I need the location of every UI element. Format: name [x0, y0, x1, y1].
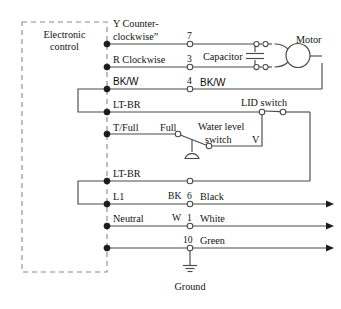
- wiring-diagram: Electronic control Y Counter- clockwise”…: [0, 0, 341, 309]
- label-green: Green: [200, 235, 225, 246]
- label-ground: Ground: [174, 281, 205, 292]
- label-bk-w-left: BK/W: [113, 76, 139, 87]
- terminal-4[interactable]: [187, 86, 193, 92]
- label-motor: Motor: [296, 34, 322, 45]
- label-neutral: Neutral: [113, 213, 144, 224]
- label-lt-br-upper: LT-BR: [113, 99, 141, 110]
- motor-terminal-bottom-left[interactable]: [254, 64, 259, 69]
- schematic-canvas: Electronic control Y Counter- clockwise”…: [0, 0, 341, 309]
- control-box-label-line2: control: [50, 41, 79, 52]
- bus-node-lt-br-lower[interactable]: [104, 178, 110, 184]
- water-level-pivot-base-icon: [185, 154, 199, 159]
- terminal-1[interactable]: [187, 223, 193, 229]
- motor-body-icon: [286, 44, 310, 68]
- electronic-control-box: [22, 22, 107, 272]
- motor-bottom-lead: [275, 62, 289, 67]
- motor-top-lead: [275, 44, 289, 49]
- motor-terminal-top-left[interactable]: [254, 41, 259, 46]
- control-box-label-line1: Electronic: [44, 29, 86, 40]
- label-water-level-switch-line2: switch: [205, 134, 232, 145]
- motor-terminal-top-right[interactable]: [263, 41, 268, 46]
- terminal-lt-br-lower[interactable]: [187, 178, 193, 184]
- label-black: Black: [200, 191, 225, 202]
- terminal-number-3: 3: [187, 53, 192, 64]
- lid-switch-right-contact[interactable]: [280, 109, 286, 115]
- terminal-7[interactable]: [187, 41, 193, 47]
- jumper-ltbr-to-l1: [78, 181, 107, 204]
- label-lid-switch: LID switch: [241, 97, 287, 108]
- terminal-3[interactable]: [187, 64, 193, 70]
- label-water-level-full-contact: Full: [160, 122, 177, 133]
- lid-switch-blade[interactable]: [265, 111, 281, 112]
- bus-node-lt-br-upper[interactable]: [104, 109, 110, 115]
- label-lt-br-lower: LT-BR: [113, 168, 141, 179]
- jumper-bkw-to-ltbr: [78, 89, 107, 112]
- terminal-10[interactable]: [187, 245, 193, 251]
- bus-node-y-counterclockwise[interactable]: [104, 41, 110, 47]
- terminal-number-1: 1: [187, 212, 192, 223]
- label-r-clockwise: R Clockwise: [113, 54, 166, 65]
- label-t-full: T/Full: [113, 122, 139, 133]
- bus-node-bk-w[interactable]: [104, 86, 110, 92]
- terminal-number-4: 4: [187, 75, 192, 86]
- arrow-green-output: [326, 245, 334, 252]
- label-capacitor: Capacitor: [203, 51, 243, 62]
- terminal-number-10: 10: [183, 234, 193, 245]
- water-level-switch-blade[interactable]: [180, 135, 206, 145]
- bus-node-neutral[interactable]: [104, 223, 110, 229]
- terminal-number-6: 6: [187, 190, 192, 201]
- label-water-level-switch-line1: Water level: [198, 121, 245, 132]
- label-white: White: [200, 213, 225, 224]
- label-y-counterclockwise-line2: clockwise”: [113, 31, 159, 42]
- bus-node-r-clockwise[interactable]: [104, 64, 110, 70]
- label-l1: L1: [113, 191, 124, 202]
- bus-node-l1[interactable]: [104, 201, 110, 207]
- bus-node-green[interactable]: [104, 245, 110, 251]
- terminal-6[interactable]: [187, 201, 193, 207]
- lid-switch-left-contact[interactable]: [259, 109, 265, 115]
- arrow-black-output: [326, 201, 334, 208]
- wire-code-bk: BK: [168, 190, 181, 201]
- label-y-counterclockwise-line1: Y Counter-: [113, 18, 159, 29]
- label-water-level-v-contact: V: [252, 134, 260, 145]
- arrow-white-output: [326, 223, 334, 230]
- terminal-number-7: 7: [187, 30, 192, 41]
- motor-terminal-bottom-right[interactable]: [263, 64, 268, 69]
- bus-node-t-full[interactable]: [104, 131, 110, 137]
- wire-code-w: W: [172, 212, 182, 223]
- label-bk-w-right: BK/W: [200, 77, 226, 88]
